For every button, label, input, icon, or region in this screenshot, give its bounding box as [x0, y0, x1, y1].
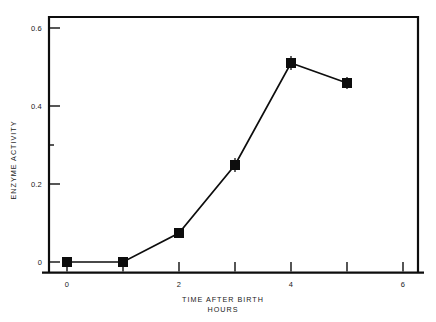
chart-figure: 0 0.2 0.4 0.6 0 2 4 6 — [0, 0, 436, 322]
enzyme-activity-line-chart: 0 0.2 0.4 0.6 0 2 4 6 — [0, 0, 436, 322]
y-tick-label-0-6: 0.6 — [31, 24, 42, 33]
y-axis-title: ENZYME ACTIVITY — [9, 121, 18, 200]
data-point-x0 — [62, 257, 72, 267]
x-tick-label-6: 6 — [401, 280, 405, 289]
data-point-x3 — [230, 160, 240, 170]
data-point-x2 — [174, 228, 184, 238]
y-axis-ticks — [49, 28, 60, 262]
data-markers — [62, 58, 352, 267]
data-point-x1 — [118, 257, 128, 267]
y-tick-label-0-2: 0.2 — [31, 180, 42, 189]
data-line-enzyme-activity — [67, 63, 347, 262]
x-axis-title-line2: HOURS — [208, 305, 239, 314]
x-tick-label-0: 0 — [65, 280, 69, 289]
y-tick-label-0: 0 — [38, 258, 42, 267]
plot-frame — [49, 17, 418, 272]
x-tick-label-4: 4 — [289, 280, 293, 289]
error-bars — [67, 56, 347, 267]
x-axis-title-line1: TIME AFTER BIRTH — [182, 295, 264, 304]
x-tick-label-2: 2 — [177, 280, 181, 289]
data-point-x4 — [286, 58, 296, 68]
data-point-x5 — [342, 78, 352, 88]
y-tick-label-0-4: 0.4 — [31, 102, 42, 111]
x-axis-ticks — [67, 262, 403, 272]
